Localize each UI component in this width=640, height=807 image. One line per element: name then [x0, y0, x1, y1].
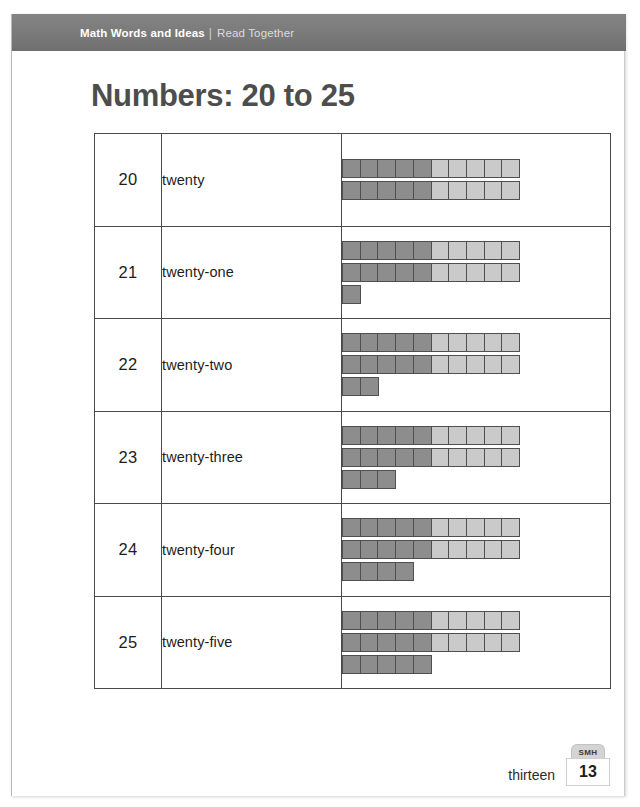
cube-dark — [395, 159, 414, 178]
cube-dark — [377, 181, 396, 200]
cube-row — [342, 241, 610, 260]
cube-light — [431, 263, 450, 282]
cube-dark — [342, 448, 361, 467]
cube-row — [342, 285, 610, 304]
cube-light — [466, 426, 485, 445]
cube-dark — [413, 263, 432, 282]
banner-secondary-label: Read Together — [217, 27, 294, 39]
numeral-cell: 23 — [95, 411, 162, 504]
cube-light — [448, 448, 467, 467]
numbers-table: 20 twenty 21 twenty-one 22 twenty-two — [94, 133, 611, 689]
cube-dark — [413, 355, 432, 374]
cube-dark — [413, 448, 432, 467]
cube-light — [431, 448, 450, 467]
cube-row — [342, 263, 610, 282]
cube-light — [431, 633, 450, 652]
cube-dark — [342, 540, 361, 559]
cube-row — [342, 333, 610, 352]
cube-row — [342, 159, 610, 178]
cube-dark — [360, 377, 379, 396]
cube-dark — [395, 241, 414, 260]
cube-dark — [360, 355, 379, 374]
cube-dark — [360, 426, 379, 445]
section-banner: Math Words and Ideas|Read Together — [12, 14, 626, 51]
cube-light — [501, 333, 520, 352]
cube-light — [466, 181, 485, 200]
cube-light — [466, 611, 485, 630]
cube-light — [431, 611, 450, 630]
cube-row — [342, 518, 610, 537]
word-cell: twenty-five — [162, 596, 342, 689]
cube-light — [466, 518, 485, 537]
cube-light — [466, 540, 485, 559]
page-number-badge: SMH 13 — [566, 744, 610, 786]
cube-dark — [377, 470, 396, 489]
cube-stack — [342, 426, 610, 489]
cube-row — [342, 181, 610, 200]
cube-light — [484, 540, 503, 559]
cube-dark — [342, 633, 361, 652]
cube-light — [484, 333, 503, 352]
cube-dark — [360, 611, 379, 630]
cube-light — [431, 518, 450, 537]
cube-dark — [395, 333, 414, 352]
cube-dark — [395, 448, 414, 467]
cube-light — [484, 159, 503, 178]
cube-dark — [360, 241, 379, 260]
banner-text-group: Math Words and Ideas|Read Together — [80, 25, 294, 40]
cube-dark — [413, 159, 432, 178]
cube-diagram-cell — [342, 319, 611, 412]
cube-dark — [395, 355, 414, 374]
cube-dark — [377, 562, 396, 581]
cube-dark — [395, 426, 414, 445]
cube-dark — [342, 285, 361, 304]
cube-light — [501, 540, 520, 559]
cube-light — [501, 241, 520, 260]
cube-light — [484, 633, 503, 652]
cube-row — [342, 611, 610, 630]
banner-primary-label: Math Words and Ideas — [80, 27, 205, 39]
word-cell: twenty-one — [162, 226, 342, 319]
cube-dark — [413, 333, 432, 352]
table-row: 23 twenty-three — [95, 411, 611, 504]
cube-dark — [395, 562, 414, 581]
cube-dark — [342, 263, 361, 282]
cube-dark — [413, 241, 432, 260]
cube-light — [431, 333, 450, 352]
cube-light — [501, 159, 520, 178]
cube-dark — [342, 655, 361, 674]
cube-stack — [342, 611, 610, 674]
cube-dark — [377, 159, 396, 178]
cube-light — [448, 518, 467, 537]
cube-stack — [342, 518, 610, 581]
cube-light — [466, 159, 485, 178]
table-row: 24 twenty-four — [95, 504, 611, 597]
cube-light — [448, 263, 467, 282]
cube-light — [484, 448, 503, 467]
cube-dark — [395, 540, 414, 559]
page-footer: thirteen SMH 13 — [12, 742, 624, 786]
cube-light — [466, 263, 485, 282]
cube-dark — [377, 448, 396, 467]
cube-light — [466, 333, 485, 352]
cube-dark — [360, 181, 379, 200]
cube-light — [448, 159, 467, 178]
table-row: 22 twenty-two — [95, 319, 611, 412]
cube-diagram-cell — [342, 596, 611, 689]
word-cell: twenty-two — [162, 319, 342, 412]
cube-light — [466, 448, 485, 467]
cube-dark — [377, 426, 396, 445]
cube-stack — [342, 333, 610, 396]
numeral-cell: 22 — [95, 319, 162, 412]
cube-row — [342, 426, 610, 445]
cube-light — [448, 355, 467, 374]
cube-light — [484, 518, 503, 537]
cube-light — [484, 611, 503, 630]
cube-dark — [342, 159, 361, 178]
cube-light — [466, 355, 485, 374]
cube-light — [448, 426, 467, 445]
cube-dark — [377, 540, 396, 559]
cube-dark — [342, 426, 361, 445]
word-cell: twenty-three — [162, 411, 342, 504]
cube-dark — [395, 518, 414, 537]
